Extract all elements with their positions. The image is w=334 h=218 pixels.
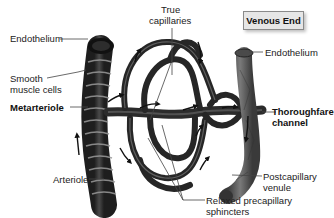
label-true-capillaries-line1: True [161, 4, 180, 15]
label-postcapillary-line1: Postcapillary [263, 171, 317, 182]
label-arteriole: Arteriole [53, 174, 88, 185]
capillary-bed-diagram: Endothelium Smooth muscle cells Metarter… [0, 0, 334, 218]
label-endothelium-left: Endothelium [10, 33, 63, 44]
label-sphincters-line2: sphincters [206, 206, 249, 217]
label-postcapillary-line2: venule [263, 182, 291, 193]
label-smooth-muscle-line1: Smooth [10, 73, 43, 84]
venous-end-title-box: Venous End [243, 11, 304, 30]
label-endothelium-right: Endothelium [265, 47, 318, 58]
label-smooth-muscle-line2: muscle cells [10, 84, 62, 95]
label-metarteriole: Metarteriole [10, 102, 64, 113]
label-sphincters-line1: Relaxed precapillary [206, 195, 292, 206]
label-thoroughfare-line2: channel [272, 117, 308, 128]
arteriole-vessel [84, 38, 116, 205]
label-thoroughfare-line1: Thoroughfare [272, 106, 334, 117]
label-true-capillaries-line2: capillaries [149, 15, 191, 26]
